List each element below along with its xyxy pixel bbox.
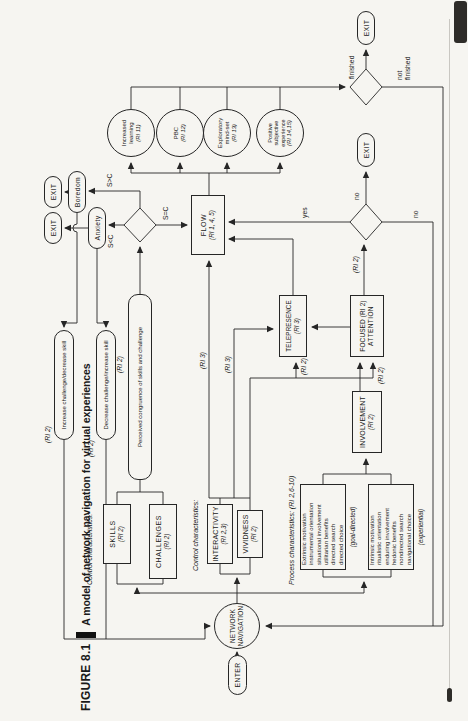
outcome-ri: (RI 11) bbox=[135, 124, 142, 141]
nn-line2: NAVIGATION bbox=[237, 606, 245, 646]
boredom-stadium: Boredom bbox=[68, 171, 86, 213]
goal-line: utilitarian benefits bbox=[323, 489, 330, 565]
label-yes: yes bbox=[301, 207, 308, 218]
outcome-ri: (RI 14,15) bbox=[286, 120, 293, 146]
positive-experience-circle: Positive subjective experience (RI 14,15… bbox=[256, 109, 304, 157]
outcome-line: learning bbox=[128, 122, 135, 143]
page-title: A model of network navigation for virtua… bbox=[80, 364, 92, 626]
figure-number: FIGURE 8.1 bbox=[79, 644, 93, 711]
label-ri2-increase: (RI 2) bbox=[44, 426, 51, 443]
flow-label: FLOW bbox=[200, 214, 208, 237]
flow-box: FLOW (RI 1, 4, 5) bbox=[191, 195, 225, 255]
vividness-label: VIVIDNESS bbox=[242, 514, 250, 553]
goal-line: directed search bbox=[330, 489, 337, 565]
experiential-line: enduring involvement bbox=[384, 489, 391, 565]
involvement-box: INVOLVEMENT (RI 2) bbox=[352, 391, 382, 453]
challenges-label: CHALLENGES bbox=[155, 515, 163, 568]
pbc-circle: PBC (RI 12) bbox=[156, 109, 204, 157]
label-s-eq-c: S=C bbox=[162, 207, 169, 220]
diamond-skill-challenge bbox=[124, 208, 156, 242]
exit-terminal-boredom: EXIT bbox=[44, 176, 62, 208]
label-finished: finished bbox=[348, 56, 355, 79]
experiential-line: navigational choice bbox=[406, 489, 413, 565]
skills-box: SKILLS (RI 2) bbox=[103, 504, 131, 564]
interactivity-label: INTERACTIVITY bbox=[212, 506, 220, 561]
focused-attention-line2: ATTENTION bbox=[367, 306, 375, 346]
skills-label: SKILLS bbox=[109, 520, 117, 547]
focused-attention-box: FOCUSED (RI 2) ATTENTION bbox=[350, 295, 384, 357]
increase-challenge-stadium: Increase challenge/decrease skill bbox=[54, 330, 74, 440]
experiential-caption: (experiential) bbox=[417, 484, 424, 570]
decrease-challenge-stadium: Decrease challenge/increase skill bbox=[96, 330, 116, 440]
control-characteristics-label-1: Control characteristics: bbox=[86, 514, 93, 585]
outcome-ri: (RI 12) bbox=[180, 124, 187, 142]
outcome-line: Increased bbox=[121, 120, 128, 146]
exit-terminal-continue: EXIT bbox=[357, 133, 375, 167]
label-ri2-decrease: (RI 2) bbox=[87, 440, 94, 457]
goal-directed-box: Extrinsic motivation instrumental orient… bbox=[300, 484, 346, 570]
involvement-label: INVOLVEMENT bbox=[359, 396, 367, 448]
label-not-finished: not finished bbox=[396, 46, 412, 80]
experiential-line: hedonic benefits bbox=[391, 489, 398, 565]
exit-terminal-finished: EXIT bbox=[357, 11, 375, 45]
experiential-line: ritualistic orientation bbox=[376, 489, 383, 565]
anxiety-stadium: Anxiety bbox=[88, 207, 106, 249]
flow-ri: (RI 1, 4, 5) bbox=[208, 210, 216, 240]
exit-terminal-anxiety: EXIT bbox=[44, 212, 62, 244]
outcome-ri: (RI 13) bbox=[231, 124, 238, 142]
label-ri2-diamond: (RI 2) bbox=[352, 256, 359, 273]
congruence-stadium: Perceived congruence of skills and chall… bbox=[128, 294, 152, 480]
nn-line1: NETWORK bbox=[229, 609, 237, 643]
diamond-continue bbox=[350, 204, 382, 240]
diagram-canvas: FIGURE 8.1 A model of network navigation… bbox=[0, 0, 468, 721]
interactivity-ri: (RI 2,3) bbox=[220, 524, 228, 545]
goal-line: instrumental orientation bbox=[308, 489, 315, 565]
involvement-ri: (RI 2) bbox=[367, 414, 375, 430]
label-no-exit: no bbox=[353, 192, 360, 200]
page-edge-mark bbox=[447, 688, 452, 702]
challenges-ri: (RI 2) bbox=[163, 534, 171, 550]
label-ri2-attention: (RI 2) bbox=[377, 367, 384, 384]
telepresence-box: TELEPRESENCE (RI 3) bbox=[279, 295, 307, 357]
figure-page: FIGURE 8.1 A model of network navigation… bbox=[0, 0, 468, 721]
outcome-line: Exploratory bbox=[217, 118, 224, 148]
label-ri2-telepresence: (RI 2) bbox=[300, 358, 307, 375]
title-bar-icon bbox=[76, 632, 96, 638]
challenges-box: CHALLENGES (RI 2) bbox=[149, 504, 177, 579]
interactivity-box: INTERACTIVITY (RI 2,3) bbox=[207, 504, 233, 564]
experiential-line: nondirected search bbox=[398, 489, 405, 565]
outcome-line: mind-set bbox=[224, 122, 231, 145]
label-ri2-congruence: (RI 2) bbox=[116, 356, 123, 373]
exploratory-mindset-circle: Exploratory mind-set (RI 13) bbox=[203, 109, 251, 157]
vividness-ri: (RI 2) bbox=[250, 526, 258, 542]
enter-terminal: ENTER bbox=[228, 655, 247, 695]
vividness-box: VIVIDNESS (RI 2) bbox=[237, 510, 263, 558]
goal-line: directed choice bbox=[338, 489, 345, 565]
label-ri3-telepresence: (RI 3) bbox=[224, 356, 231, 373]
page-corner-shadow bbox=[454, 1, 467, 43]
increased-learning-circle: Increased learning (RI 11) bbox=[107, 109, 155, 157]
goal-line: Extrinsic motivation bbox=[301, 489, 308, 565]
goal-directed-caption: (goal-directed) bbox=[349, 484, 356, 570]
skills-ri: (RI 2) bbox=[117, 526, 125, 542]
outcome-line: PBC bbox=[173, 127, 180, 139]
network-navigation-node: NETWORK NAVIGATION bbox=[214, 603, 260, 649]
label-s-gt-c: S>C bbox=[106, 174, 113, 187]
experiential-line: Intrinsic motivation bbox=[369, 489, 376, 565]
page-edge-line bbox=[449, 19, 450, 701]
label-no-loop: no bbox=[412, 210, 419, 218]
telepresence-ri: (RI 3) bbox=[293, 318, 301, 334]
label-s-lt-c: S<C bbox=[107, 235, 114, 248]
process-characteristics-label: Process characteristics: (RI 2,6-10) bbox=[288, 476, 295, 585]
experiential-box: Intrinsic motivation ritualistic orienta… bbox=[368, 484, 414, 570]
goal-line: situational involvement bbox=[316, 489, 323, 565]
control-characteristics-label-2: Control characteristics: bbox=[192, 500, 199, 571]
label-ri3-flow: (RI 3) bbox=[199, 352, 206, 369]
focused-attention-line1: FOCUSED (RI 2) bbox=[359, 300, 367, 351]
telepresence-label: TELEPRESENCE bbox=[285, 300, 293, 352]
